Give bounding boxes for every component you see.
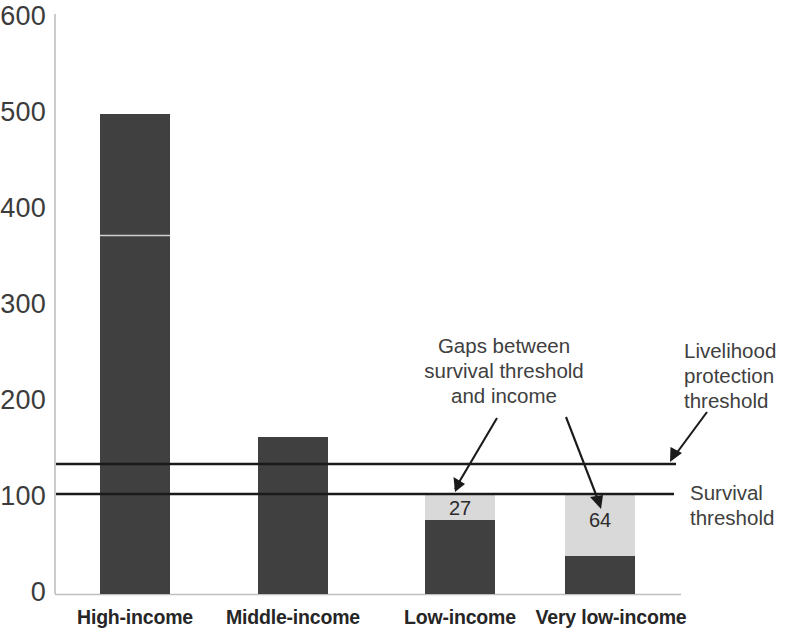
y-tick-600: 600 bbox=[0, 3, 46, 30]
y-tick-100: 100 bbox=[0, 483, 46, 510]
bar-middle-income-income bbox=[258, 437, 328, 594]
bar-value-very-low-income: 64 bbox=[565, 510, 635, 530]
bar-high-income-income bbox=[100, 114, 170, 594]
bar-low-income-income bbox=[425, 520, 495, 594]
x-category-very-low-income: Very low-income bbox=[521, 608, 701, 628]
y-tick-400: 400 bbox=[0, 195, 46, 222]
y-tick-0: 0 bbox=[0, 579, 46, 606]
bar-chart-figure: 600 500 400 300 200 100 0 27 64 High-inc… bbox=[0, 0, 789, 632]
x-category-high-income: High-income bbox=[55, 608, 215, 628]
livelihood-arrow bbox=[670, 412, 707, 462]
bar-value-low-income: 27 bbox=[425, 498, 495, 518]
bar-very-low-income-income bbox=[565, 556, 635, 594]
x-category-middle-income: Middle-income bbox=[213, 608, 373, 628]
survival-annotation-text: Survival threshold bbox=[690, 480, 789, 530]
gaps-arrow-left bbox=[454, 418, 498, 492]
x-category-low-income: Low-income bbox=[382, 608, 538, 628]
chart-canvas bbox=[0, 0, 789, 632]
livelihood-annotation-text: Livelihood protection threshold bbox=[684, 338, 789, 413]
gaps-annotation-text: Gaps between survival threshold and inco… bbox=[397, 333, 611, 408]
y-tick-300: 300 bbox=[0, 291, 46, 318]
y-tick-200: 200 bbox=[0, 387, 46, 414]
y-tick-500: 500 bbox=[0, 99, 46, 126]
